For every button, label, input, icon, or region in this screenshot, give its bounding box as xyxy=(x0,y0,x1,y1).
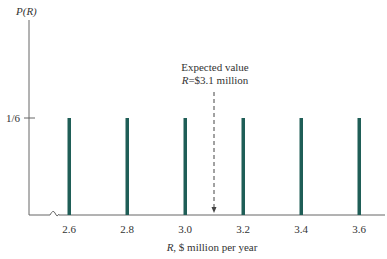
annotation-line2: R=$3.1 million xyxy=(181,74,249,86)
x-tick-label: 2.8 xyxy=(120,223,134,235)
bar-3.0 xyxy=(184,118,188,215)
arrowhead-icon xyxy=(212,207,217,213)
x-tick-labels: 2.6 2.8 3.0 3.2 3.4 3.6 xyxy=(62,223,366,235)
x-axis xyxy=(29,211,385,215)
bar-3.4 xyxy=(300,118,304,215)
annotation-line1: Expected value xyxy=(181,61,249,73)
bar-3.6 xyxy=(358,118,362,215)
axis-break-icon xyxy=(50,211,59,215)
annotation-rest: =$3.1 million xyxy=(188,74,248,86)
y-tick-label: 1/6 xyxy=(6,112,21,124)
x-axis-label: R, $ million per year xyxy=(166,241,258,253)
x-tick-label: 2.6 xyxy=(62,223,76,235)
pmf-chart: 1/6 P(R) 2.6 2.8 3.0 3.2 3.4 3.6 R, $ mi… xyxy=(0,0,387,259)
x-tick-label: 3.4 xyxy=(294,223,308,235)
bar-2.8 xyxy=(126,118,130,215)
x-tick-label: 3.0 xyxy=(178,223,192,235)
bar-2.6 xyxy=(68,118,72,215)
y-axis-label: P(R) xyxy=(15,5,37,18)
x-axis-label-rest: , $ million per year xyxy=(173,241,257,253)
x-tick-label: 3.2 xyxy=(236,223,250,235)
bar-3.2 xyxy=(242,118,246,215)
x-tick-label: 3.6 xyxy=(352,223,366,235)
